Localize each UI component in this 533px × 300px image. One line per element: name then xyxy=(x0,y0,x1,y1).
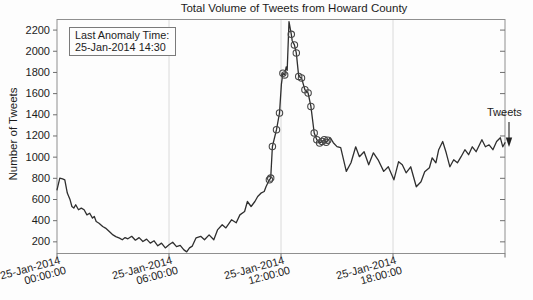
last-anomaly-annotation-box: Last Anomaly Time: 25-Jan-2014 14:30 xyxy=(69,27,176,56)
chart-figure: 2004006008001000120014001600180020002200… xyxy=(0,0,533,300)
chart-title: Total Volume of Tweets from Howard Count… xyxy=(94,2,494,14)
y-tick-label: 2000 xyxy=(26,45,50,57)
x-tick-label: 25-Jan-201400:00:00 xyxy=(0,253,67,292)
y-tick-label: 400 xyxy=(32,214,50,226)
y-tick-label: 1000 xyxy=(26,151,50,163)
y-tick-label: 1400 xyxy=(26,108,50,120)
annotation-line-1: Last Anomaly Time: xyxy=(75,29,169,41)
y-tick-label: 1200 xyxy=(26,129,50,141)
y-tick-label: 600 xyxy=(32,193,50,205)
y-tick-label: 2200 xyxy=(26,24,50,36)
y-axis-label: Number of Tweets xyxy=(7,54,21,214)
annotation-line-2: 25-Jan-2014 14:30 xyxy=(75,41,169,53)
x-tick-label: 25-Jan-201412:00:00 xyxy=(223,253,292,292)
series-label: Tweets xyxy=(487,106,522,118)
x-tick-label: 25-Jan-201406:00:00 xyxy=(111,253,180,292)
y-tick-label: 200 xyxy=(32,235,50,247)
y-tick-label: 1800 xyxy=(26,66,50,78)
y-tick-label: 800 xyxy=(32,172,50,184)
x-tick-label: 25-Jan-201418:00:00 xyxy=(335,253,404,292)
y-tick-label: 1600 xyxy=(26,87,50,99)
series-label-arrowhead xyxy=(506,138,512,148)
